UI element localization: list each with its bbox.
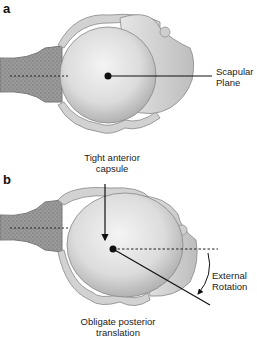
panel-b-illustration <box>0 184 218 306</box>
panel-label-a: a <box>3 1 10 16</box>
scapula-neck-icon <box>0 46 62 102</box>
label-external-rotation: External Rotation <box>212 270 247 292</box>
label-tight-anterior-capsule: Tight anterior capsule <box>72 152 152 174</box>
label-scapular-plane: Scapular Plane <box>216 66 254 88</box>
scapula-neck-b-icon <box>0 200 62 252</box>
panel-a-illustration <box>0 14 212 133</box>
center-dot-a <box>105 73 112 80</box>
panel-label-b: b <box>3 172 11 187</box>
external-rotation-arrow <box>198 253 210 294</box>
humeral-head-b <box>67 193 183 297</box>
label-obligate-posterior-translation: Obligate posterior translation <box>68 316 168 338</box>
center-dot-b <box>110 246 117 253</box>
